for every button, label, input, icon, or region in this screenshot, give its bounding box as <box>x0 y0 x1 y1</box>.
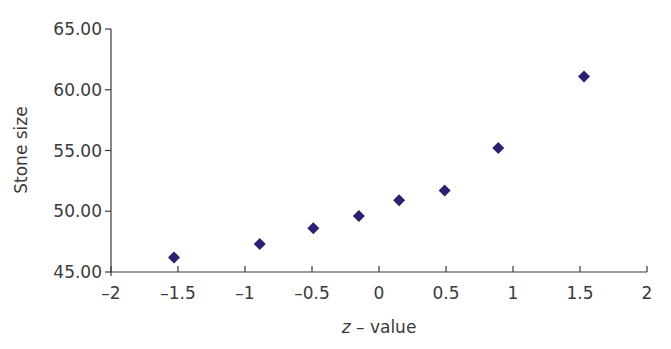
y-tick-label: 65.00 <box>53 19 102 39</box>
diamond-marker <box>439 185 451 197</box>
x-tick-label: 2 <box>642 283 653 303</box>
x-tick-label: 1.5 <box>566 283 593 303</box>
diamond-marker <box>393 194 405 206</box>
diamond-marker <box>168 251 180 263</box>
diamond-marker <box>578 70 590 82</box>
diamond-marker <box>353 210 365 222</box>
x-tick-label: –1 <box>235 283 254 303</box>
y-tick-label: 50.00 <box>53 201 102 221</box>
x-axis-title: z – value <box>341 317 417 337</box>
x-axis-title-rest: – value <box>351 317 417 337</box>
y-tick-label: 55.00 <box>53 141 102 161</box>
x-tick-label: –0.5 <box>294 283 330 303</box>
x-tick-label: 0.5 <box>432 283 459 303</box>
diamond-marker <box>492 142 504 154</box>
scatter-chart: 45.0050.0055.0060.0065.00 –2–1.5–1–0.500… <box>0 0 671 349</box>
y-axis-title: Stone size <box>11 106 31 193</box>
x-tick-label: 1 <box>508 283 519 303</box>
x-axis: –2–1.5–1–0.500.511.52 <box>101 266 652 303</box>
data-points <box>168 70 590 263</box>
x-tick-label: –2 <box>101 283 120 303</box>
y-tick-label: 60.00 <box>53 80 102 100</box>
x-tick-label: 0 <box>374 283 385 303</box>
y-tick-label: 45.00 <box>53 262 102 282</box>
y-axis: 45.0050.0055.0060.0065.00 <box>53 19 111 282</box>
diamond-marker <box>307 222 319 234</box>
x-tick-label: –1.5 <box>160 283 196 303</box>
diamond-marker <box>254 238 266 250</box>
